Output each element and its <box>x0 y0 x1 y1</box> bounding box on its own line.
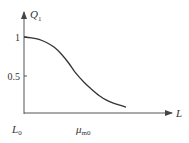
x-axis-label: L <box>175 107 182 119</box>
y-tick-label: 1 <box>15 32 20 43</box>
y-axis-label: Q1 <box>30 8 42 23</box>
x-ticks: L0μm0 <box>11 123 91 137</box>
x-tick-label: L0 <box>11 123 22 137</box>
series-line-q1 <box>24 37 126 107</box>
y-tick-label: 0.5 <box>8 71 21 82</box>
x-tick-label: μm0 <box>75 123 91 137</box>
chart: Q1 L 10.5 L0μm0 <box>0 0 189 143</box>
